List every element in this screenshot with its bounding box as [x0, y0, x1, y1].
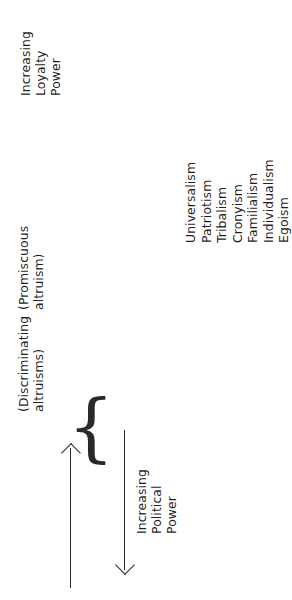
- increasing-loyalty-power-label: Increasing Loyalty Power: [18, 31, 64, 96]
- loyalty-label-line-3: Power: [48, 31, 63, 96]
- promiscuous-altruism-label: (Promiscuous altruism): [16, 226, 46, 310]
- promiscuous-line-2: altruism): [31, 226, 46, 310]
- loyalty-label-line-1: Increasing: [18, 31, 33, 96]
- increasing-political-power-arrow: [124, 430, 125, 570]
- promiscuous-line-1: (Promiscuous: [16, 226, 31, 310]
- loyalty-label-line-2: Loyalty: [33, 31, 48, 96]
- rotated-figure-wrapper: Increasing Loyalty Power (Promiscuous al…: [0, 0, 181, 600]
- political-label-line-3: Power: [164, 469, 179, 534]
- political-label-line-1: Increasing: [134, 469, 149, 534]
- increasing-political-power-label: Increasing Political Power: [134, 469, 180, 534]
- political-label-line-2: Political: [149, 469, 164, 534]
- altruism-continuum-diagram: Increasing Loyalty Power (Promiscuous al…: [0, 0, 181, 600]
